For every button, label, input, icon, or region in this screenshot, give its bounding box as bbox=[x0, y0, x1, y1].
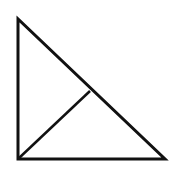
triangle-diagram bbox=[0, 0, 177, 180]
